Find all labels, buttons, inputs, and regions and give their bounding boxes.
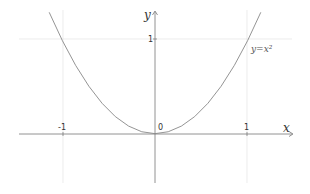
x-axis-label: x bbox=[283, 121, 290, 135]
curve-label: y=x² bbox=[250, 44, 273, 54]
tick-label-x-pos1: 1 bbox=[244, 123, 249, 132]
y-axis-label: y bbox=[143, 8, 151, 22]
origin-label: 0 bbox=[158, 123, 163, 132]
tick-label-x-neg1: -1 bbox=[58, 123, 66, 132]
parabola-chart: -1 0 1 1 x y y=x² bbox=[0, 0, 310, 194]
tick-label-y-pos1: 1 bbox=[148, 35, 153, 44]
